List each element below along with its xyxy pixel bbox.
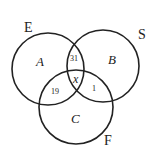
region-e-s: 31: [70, 55, 78, 63]
circle-e: [12, 33, 84, 105]
region-e-f: 19: [51, 88, 59, 96]
set-label-e: E: [24, 21, 33, 35]
circle-s: [67, 30, 139, 102]
region-b: B: [108, 53, 116, 66]
set-label-f: F: [104, 134, 112, 148]
region-s-f: 1: [92, 85, 96, 93]
region-c: C: [71, 112, 80, 125]
set-label-s: S: [138, 28, 146, 42]
region-a: A: [36, 55, 44, 68]
region-all: x: [73, 73, 78, 85]
venn-diagram: E S F A B C 31 19 1 x: [0, 0, 152, 153]
